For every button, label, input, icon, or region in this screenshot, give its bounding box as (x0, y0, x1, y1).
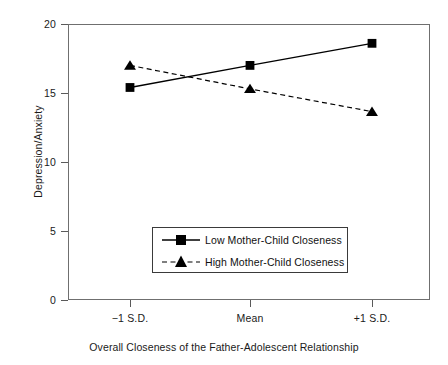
x-tick-label-mean: Mean (205, 312, 295, 324)
y-axis-title: Depression/Anxiety (33, 52, 44, 252)
x-tick-minus-1-sd (130, 300, 131, 307)
x-tick-mean (250, 300, 251, 307)
y-tick-label-0: 0 (16, 295, 56, 306)
legend-label-high: High Mother-Child Closeness (205, 256, 344, 268)
legend-swatch-dashed-triangle-icon (161, 252, 201, 272)
y-tick-label-20: 20 (16, 19, 56, 30)
y-tick-5 (61, 231, 68, 232)
x-tick-plus-1-sd (372, 300, 373, 307)
legend-label-low: Low Mother-Child Closeness (205, 234, 342, 246)
legend-item-high: High Mother-Child Closeness (153, 250, 349, 273)
y-tick-10 (61, 162, 68, 163)
legend-swatch-solid-square-icon (161, 230, 201, 250)
y-tick-15 (61, 93, 68, 94)
legend: Low Mother-Child Closeness High Mother-C… (152, 227, 348, 273)
legend-item-low: Low Mother-Child Closeness (153, 228, 349, 251)
x-axis-title: Overall Closeness of the Father-Adolesce… (0, 341, 448, 353)
chart-figure: 20 15 10 5 0 −1 S.D. Mean +1 S.D. Depres… (0, 0, 448, 365)
x-tick-label-minus-1-sd: −1 S.D. (85, 312, 175, 324)
y-tick-20 (61, 24, 68, 25)
x-tick-label-plus-1-sd: +1 S.D. (327, 312, 417, 324)
y-tick-0 (61, 300, 68, 301)
